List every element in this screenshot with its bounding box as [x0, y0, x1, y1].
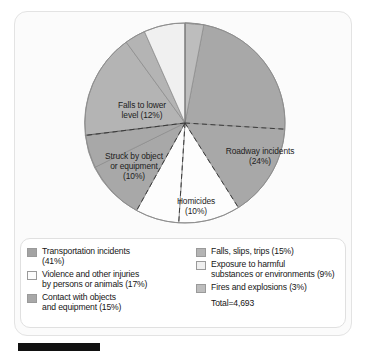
legend-column-left: Transportation incidents (41%) Violence … — [27, 246, 196, 322]
legend-swatch-icon — [196, 284, 206, 293]
pie-plot-area: Roadway incidents (24%) Falls to lower l… — [22, 16, 344, 232]
legend-item-label: Falls, slips, trips (15%) — [211, 246, 294, 256]
legend-swatch-icon — [196, 248, 206, 257]
legend-item-fires-and-explosions: Fires and explosions (3%) — [196, 282, 341, 293]
pie-label-falls-to-lower-level: Falls to lower level (12%) — [100, 100, 184, 120]
legend-swatch-icon — [27, 271, 37, 280]
legend-swatch-icon — [27, 248, 37, 257]
legend-item-label: Violence and other injuries by persons o… — [42, 269, 147, 290]
legend-total-label: Total=4,693 — [196, 298, 341, 308]
legend-item-contact-with-objects: Contact with objects and equipment (15%) — [27, 292, 196, 313]
pie-label-roadway-incidents: Roadway incidents (24%) — [218, 146, 302, 166]
chart-legend: Transportation incidents (41%) Violence … — [20, 238, 346, 328]
pie-label-homicides: Homicides (10%) — [161, 196, 231, 216]
legend-item-label: Transportation incidents (41%) — [42, 246, 130, 267]
legend-item-label: Fires and explosions (3%) — [211, 282, 307, 292]
legend-item-exposure-to-harmful-substances: Exposure to harmful substances or enviro… — [196, 259, 341, 280]
legend-column-right: Falls, slips, trips (15%) Exposure to ha… — [196, 246, 341, 322]
legend-swatch-icon — [196, 261, 206, 270]
bottom-black-bar — [18, 343, 100, 351]
pie-label-struck-by-object: Struck by object or equipment (10%) — [91, 151, 177, 182]
legend-item-label: Exposure to harmful substances or enviro… — [211, 259, 334, 280]
pie-chart: Roadway incidents (24%) Falls to lower l… — [22, 16, 344, 232]
legend-item-falls-slips-trips: Falls, slips, trips (15%) — [196, 246, 341, 257]
legend-item-transportation-incidents: Transportation incidents (41%) — [27, 246, 196, 267]
legend-item-label: Contact with objects and equipment (15%) — [42, 292, 121, 313]
legend-swatch-icon — [27, 294, 37, 303]
legend-item-violence-and-other-injuries: Violence and other injuries by persons o… — [27, 269, 196, 290]
